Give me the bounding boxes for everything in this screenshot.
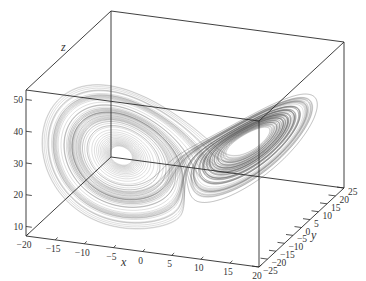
- edge-left-bottom: [26, 157, 111, 236]
- y-tick: [312, 211, 319, 212]
- y-tick: [261, 258, 268, 259]
- y-tick: [269, 250, 276, 251]
- x-tick-label: −5: [106, 252, 116, 262]
- x-tick: [113, 245, 116, 247]
- y-tick-label: 0: [306, 227, 311, 237]
- z-tick: [26, 100, 32, 101]
- x-tick: [84, 241, 87, 243]
- x-axis-label: x: [120, 255, 127, 269]
- x-tick: [143, 249, 146, 251]
- x-tick-label: 5: [167, 259, 172, 269]
- z-tick: [26, 226, 32, 227]
- y-tick-label: 25: [348, 187, 358, 197]
- x-tick: [55, 238, 58, 240]
- z-tick-label: 10: [14, 222, 24, 232]
- y-tick: [278, 242, 285, 243]
- x-tick-label: 0: [138, 256, 143, 266]
- y-tick: [286, 234, 293, 235]
- y-tick: [303, 219, 310, 220]
- z-tick: [26, 131, 32, 132]
- x-tick-label: −20: [17, 240, 32, 250]
- z-tick: [26, 195, 32, 196]
- x-tick-label: 10: [194, 263, 204, 273]
- y-tick: [320, 203, 327, 204]
- y-tick: [252, 266, 259, 267]
- lorenz-trajectory-line: [42, 85, 317, 229]
- z-tick: [26, 163, 32, 164]
- x-tick-label: 15: [223, 267, 233, 277]
- y-tick: [337, 187, 344, 188]
- y-axis-label: y: [310, 228, 317, 242]
- y-tick: [295, 227, 302, 228]
- edge-left-top: [26, 11, 111, 90]
- z-axis-label: z: [60, 40, 66, 54]
- x-tick-label: −10: [75, 248, 90, 258]
- x-tick-label: −15: [46, 244, 61, 254]
- x-tick: [201, 257, 204, 259]
- x-tick-label: 20: [252, 271, 262, 281]
- x-tick: [172, 253, 175, 255]
- z-tick-label: 40: [14, 127, 24, 137]
- z-tick-label: 30: [14, 159, 24, 169]
- z-tick-label: 20: [14, 190, 24, 200]
- z-tick-label: 50: [14, 95, 24, 105]
- lorenz-attractor-chart: −20−15−10−505101520−25−20−15−10−50510152…: [0, 0, 366, 281]
- x-tick: [230, 261, 233, 263]
- edge-right-top: [259, 42, 344, 121]
- y-tick: [329, 195, 336, 196]
- trajectory: [42, 85, 317, 229]
- edge-back-top: [111, 11, 344, 42]
